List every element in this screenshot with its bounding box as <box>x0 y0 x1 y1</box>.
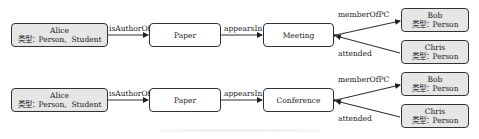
node-type: 类型：Person、Student <box>18 35 102 44</box>
node-bob: Bob 类型：Person <box>401 72 469 96</box>
edge-label-appears-in: appearsIn <box>224 89 262 98</box>
node-chris: Chris 类型：Person <box>401 40 469 64</box>
edge-label-member-of-pc: memberOfPC <box>338 75 389 84</box>
edge-label-is-author-of: isAuthorOf <box>109 24 150 33</box>
node-name: Bob <box>428 75 443 84</box>
edge-member-of-pc-2 <box>336 85 400 100</box>
node-name: Meeting <box>283 31 315 40</box>
node-name: Chris <box>425 43 445 52</box>
node-type: 类型：Person <box>412 52 459 61</box>
node-name: Paper <box>174 31 196 40</box>
node-type: 类型：Person <box>412 116 459 125</box>
node-name: Paper <box>174 96 196 105</box>
edge-label-appears-in: appearsIn <box>224 24 262 33</box>
node-chris: Chris 类型：Person <box>401 104 469 128</box>
node-name: Alice <box>50 26 69 35</box>
node-paper: Paper <box>149 23 221 47</box>
node-meeting: Meeting <box>263 23 334 47</box>
edge-member-of-pc-1 <box>336 21 400 35</box>
node-name: Chris <box>425 107 445 116</box>
edge-label-is-author-of: isAuthorOf <box>109 89 150 98</box>
node-type: 类型：Person、Student <box>18 100 102 109</box>
node-name: Conference <box>277 96 321 105</box>
faded-caption <box>160 129 320 132</box>
node-conference: Conference <box>263 88 334 112</box>
node-alice: Alice 类型：Person、Student <box>11 88 108 112</box>
node-paper: Paper <box>149 88 221 112</box>
node-type: 类型：Person <box>412 20 459 29</box>
node-name: Bob <box>428 11 443 20</box>
node-type: 类型：Person <box>412 84 459 93</box>
edge-label-member-of-pc: memberOfPC <box>338 10 389 19</box>
node-alice: Alice 类型：Person、Student <box>11 23 108 47</box>
node-bob: Bob 类型：Person <box>401 8 469 32</box>
edge-label-attended: attended <box>338 49 372 58</box>
edge-label-attended: attended <box>338 114 372 123</box>
node-name: Alice <box>50 91 69 100</box>
